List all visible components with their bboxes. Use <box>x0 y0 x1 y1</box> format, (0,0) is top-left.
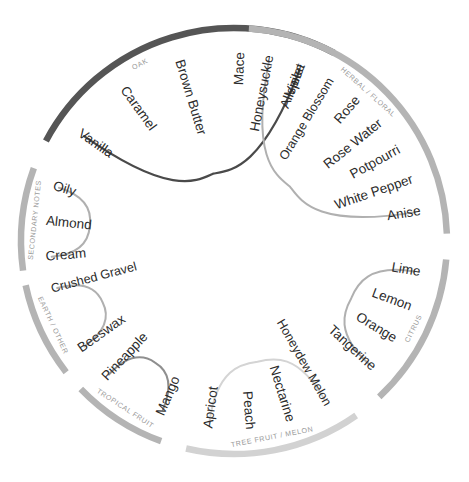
term-label: Apricot <box>200 385 221 429</box>
term-label: Beeswax <box>75 311 129 355</box>
term-label: Rose <box>331 93 363 127</box>
term-label: Anise <box>386 203 422 223</box>
term-label: Oily <box>51 178 78 199</box>
term-label: Honeysuckle <box>247 54 276 133</box>
category-arc-earth-other <box>26 285 67 372</box>
category-label-oak: OAK <box>131 57 150 72</box>
term-label: Mango <box>153 374 183 418</box>
category-arc-tropical-fruit <box>81 389 161 441</box>
term-label: Cream <box>45 245 87 263</box>
term-label: Lime <box>390 259 421 279</box>
term-label: Caramel <box>118 83 160 133</box>
term-label: Peach <box>240 391 258 430</box>
term-label: Brown Butter <box>172 58 209 137</box>
term-label: Mace <box>231 52 247 86</box>
term-label-group: VanillaCaramelBrown ButterMaceAllspiceHo… <box>45 52 422 430</box>
term-label: Almond <box>45 213 92 233</box>
term-label: Vanilla <box>75 126 116 161</box>
flavor-wheel-diagram: OAKHERBAL / FLORALCITRUSTREE FRUIT / MEL… <box>0 0 469 482</box>
term-label: Lemon <box>370 285 414 314</box>
term-label: Orange <box>353 309 399 345</box>
term-label: Violet <box>282 61 308 98</box>
term-label: Nectarine <box>267 364 298 424</box>
